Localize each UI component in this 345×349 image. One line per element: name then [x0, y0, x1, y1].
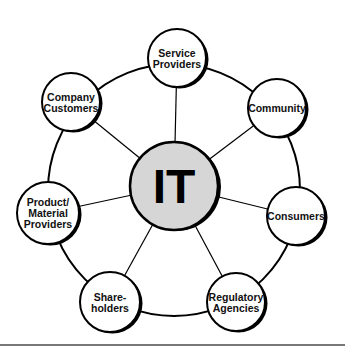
node-label: Providers — [153, 58, 202, 70]
node-consumers: Consumers — [267, 187, 328, 247]
node-label: Consumers — [267, 210, 325, 222]
center-hub: IT — [130, 142, 221, 231]
node-shareholders: Share-holders — [80, 272, 143, 334]
center-label: IT — [153, 160, 196, 213]
node-regulatory-agencies: RegulatoryAgencies — [207, 273, 268, 333]
node-label: Community — [248, 102, 306, 114]
node-label: holders — [91, 302, 129, 314]
node-label: Customers — [44, 102, 99, 114]
node-service-providers: ServiceProviders — [148, 29, 209, 89]
node-label: Agencies — [213, 302, 260, 314]
node-company-customers: CompanyCustomers — [42, 73, 103, 133]
node-community: Community — [248, 79, 309, 139]
node-product-material-providers: Product/MaterialProviders — [17, 182, 82, 246]
bottom-divider — [0, 344, 345, 346]
stakeholder-diagram: IT ServiceProvidersCommunityConsumersReg… — [0, 0, 345, 349]
node-label: Providers — [24, 218, 73, 230]
